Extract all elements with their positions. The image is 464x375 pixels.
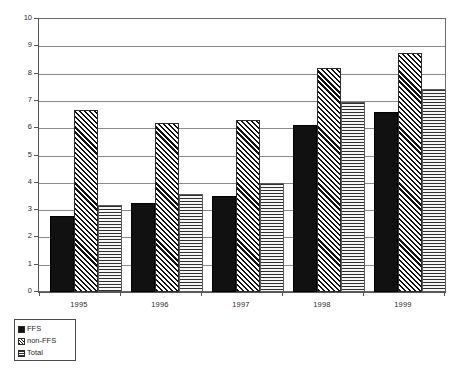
legend-item-nonffs: non-FFS [18,335,75,347]
bar-nonffs-1999 [398,53,422,292]
y-tick-mark [34,73,38,74]
x-tick-label-1997: 1997 [211,300,271,309]
x-tick-mark [444,292,445,296]
bar-ffs-1999 [374,112,398,292]
bar-total-1995 [98,205,122,292]
bar-nonffs-1998 [317,68,341,292]
y-tick-label: 9 [0,41,32,49]
x-tick-label-1999: 1999 [373,300,433,309]
y-tick-mark [34,45,38,46]
bar-total-1996 [179,194,203,292]
bar-ffs-1996 [131,203,155,292]
y-tick-mark [34,100,38,101]
y-tick-label: 2 [0,232,32,240]
y-tick-label: 6 [0,123,32,131]
legend-swatch-total-icon [18,350,25,357]
legend-item-ffs: FFS [18,323,75,335]
y-tick-label: 0 [0,287,32,295]
legend-swatch-nonffs-icon [18,338,25,345]
y-tick-mark [34,291,38,292]
y-tick-mark [34,127,38,128]
y-tick-label: 3 [0,205,32,213]
legend-item-total: Total [18,347,75,359]
y-tick-label: 5 [0,151,32,159]
y-tick-mark [34,236,38,237]
legend-label-nonffs: non-FFS [27,337,56,345]
bar-chart: 10 9 8 7 6 5 4 3 2 1 0 1995 1996 1997 [0,0,464,375]
y-tick-mark [34,155,38,156]
legend-swatch-ffs-icon [18,326,25,333]
bar-nonffs-1995 [74,110,98,292]
bar-total-1997 [260,183,284,292]
y-tick-mark [34,182,38,183]
bar-ffs-1998 [293,125,317,292]
x-tick-mark [282,292,283,296]
x-axis [38,292,446,293]
legend-label-ffs: FFS [27,325,41,333]
bar-ffs-1997 [212,196,236,292]
x-tick-mark [39,292,40,296]
y-tick-label: 7 [0,96,32,104]
y-tick-mark [34,264,38,265]
legend: FFS non-FFS Total [14,319,76,361]
x-tick-mark [120,292,121,296]
y-tick-label: 4 [0,178,32,186]
bars-layer [39,19,445,292]
x-tick-label-1996: 1996 [130,300,190,309]
bar-nonffs-1996 [155,123,179,292]
x-tick-label-1995: 1995 [49,300,109,309]
x-tick-mark [363,292,364,296]
legend-label-total: Total [27,349,43,357]
y-tick-label: 1 [0,260,32,268]
y-tick-mark [34,209,38,210]
y-tick-label: 8 [0,69,32,77]
bar-nonffs-1997 [236,120,260,292]
x-tick-label-1998: 1998 [292,300,352,309]
x-tick-mark [201,292,202,296]
y-tick-label: 10 [0,14,32,22]
bar-total-1998 [341,102,365,292]
y-tick-mark [34,18,38,19]
bar-total-1999 [422,89,446,292]
bar-ffs-1995 [50,216,74,292]
